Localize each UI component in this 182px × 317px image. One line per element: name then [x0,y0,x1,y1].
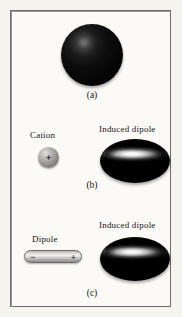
induced-dipole-ellipse-b [100,139,170,183]
induced-dipole-label-b: Induced dipole [99,124,156,135]
panel-label-a: (a) [70,90,114,101]
cation-sphere: + [38,147,59,168]
panel-label-c: (c) [70,288,114,299]
dipole-bar: − + [24,250,82,263]
induced-dipole-label-c: Induced dipole [99,220,156,231]
dipole-minus-icon: − [30,252,35,261]
dipole-plus-icon: + [71,252,76,261]
cation-label: Cation [30,130,55,141]
polarization-figure: (a) Cation + Induced dipole (b) Dipole −… [0,0,182,317]
dipole-label: Dipole [32,234,58,245]
nonpolar-atom-sphere [61,24,123,86]
cation-charge-plus-icon: + [38,147,59,168]
induced-dipole-ellipse-c [100,237,170,281]
panel-label-b: (b) [70,180,114,191]
